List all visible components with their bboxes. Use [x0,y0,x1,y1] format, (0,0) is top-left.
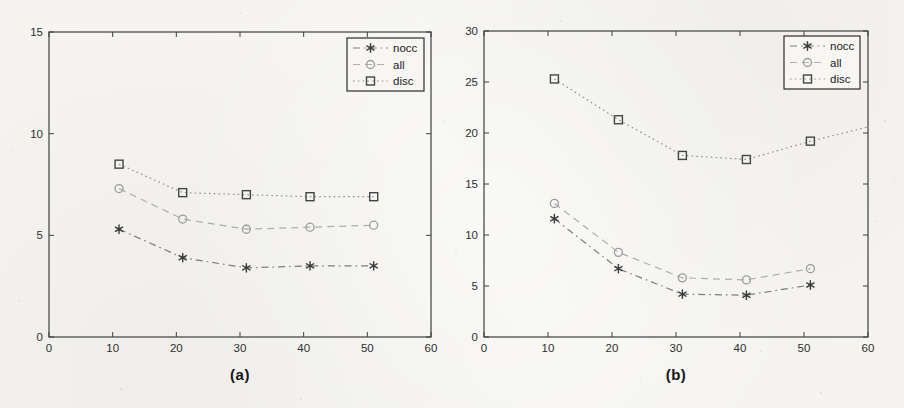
marker-star-nocc [807,281,814,289]
marker-circle-all [550,199,558,207]
series-line-all [119,189,374,230]
legend-label-nocc: nocc [393,42,418,54]
star-center [681,293,684,296]
legend-label-all: all [393,59,405,71]
legend-label-disc: disc [393,75,414,87]
series-line-disc [554,79,868,160]
figure-page: 0102030405060051015noccalldisc 010203040… [0,0,904,408]
marker-star-nocc [615,264,622,272]
chart-a-caption: (a) [49,366,431,383]
star-center [617,267,620,270]
x-axis-tick-label: 60 [862,342,875,354]
x-axis-tick-label: 50 [361,342,374,354]
legend-label-all: all [830,57,842,69]
series-line-all [554,203,810,280]
x-axis-tick-label: 20 [170,342,183,354]
x-axis-tick-label: 20 [606,342,619,354]
y-axis-tick-label: 20 [465,127,478,139]
marker-square-disc [742,156,750,164]
marker-circle-all [370,221,378,229]
legend-box: noccalldisc [784,36,860,89]
star-center [118,228,121,231]
star-center [553,217,556,220]
y-axis-tick-label: 15 [465,178,478,190]
legend-label-nocc: nocc [830,40,855,52]
y-axis-tick-label: 10 [465,229,478,241]
x-axis-tick-label: 30 [234,342,247,354]
series-line-nocc [119,229,374,268]
x-axis-tick-label: 10 [542,342,555,354]
marker-circle-all [614,248,622,256]
marker-square-disc [614,116,622,124]
series-line-disc [119,164,374,197]
y-axis-tick-label: 25 [465,76,478,88]
star-center [181,256,184,259]
chart-b: 0102030405060051015202530noccalldisc [452,0,904,408]
star-center [745,294,748,297]
marker-square-disc [370,193,378,201]
marker-star-nocc [551,214,558,222]
chart-b-caption: (b) [484,366,868,383]
star-center [806,45,809,48]
legend-box: noccalldisc [347,38,424,91]
star-center [372,264,375,267]
y-axis-tick-label: 0 [472,331,478,343]
marker-star-nocc [370,262,377,270]
x-axis-tick-label: 0 [481,342,487,354]
x-axis-tick-label: 50 [798,342,811,354]
marker-star-nocc [115,225,122,233]
y-axis-tick-label: 0 [37,331,43,343]
x-axis-tick-label: 40 [297,342,310,354]
series-line-nocc [554,219,810,296]
x-axis-tick-label: 0 [46,342,52,354]
y-axis-tick-label: 5 [37,229,43,241]
marker-circle-all [806,265,814,273]
x-axis-tick-label: 60 [425,342,438,354]
star-center [309,264,312,267]
star-center [809,284,812,287]
star-center [369,47,372,50]
star-center [245,266,248,269]
x-axis-tick-label: 30 [670,342,683,354]
x-axis-tick-label: 40 [734,342,747,354]
y-axis-tick-label: 15 [30,26,43,38]
y-axis-tick-label: 30 [465,25,478,37]
chart-a: 0102030405060051015noccalldisc [0,0,452,408]
y-axis-tick-label: 5 [472,280,478,292]
x-axis-tick-label: 10 [106,342,119,354]
y-axis-tick-label: 10 [30,128,43,140]
legend-label-disc: disc [830,73,851,85]
